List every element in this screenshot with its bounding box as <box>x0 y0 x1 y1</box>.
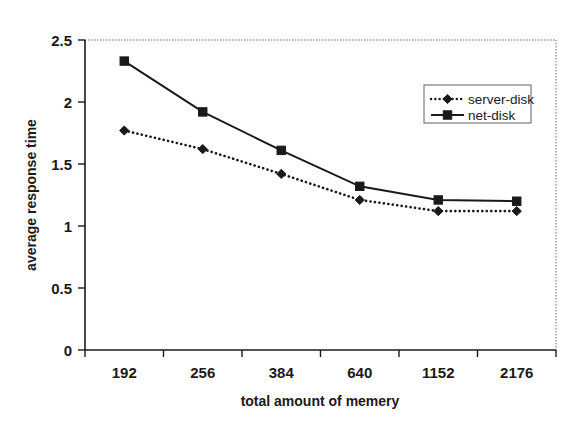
data-point-marker <box>356 182 364 190</box>
chart-container: 00.511.522.5 average response time 19225… <box>0 0 583 425</box>
y-tick-label: 2.5 <box>51 32 72 49</box>
chart-background <box>0 0 583 425</box>
y-tick-label: 1 <box>64 218 72 235</box>
data-point-marker <box>513 197 521 205</box>
data-point-marker <box>120 57 128 65</box>
x-tick-label: 192 <box>112 364 137 381</box>
y-axis-title: average response time <box>23 119 39 271</box>
y-tick-label: 1.5 <box>51 156 72 173</box>
x-tick-label: 256 <box>190 364 215 381</box>
x-tick-label: 640 <box>347 364 372 381</box>
data-point-marker <box>434 196 442 204</box>
legend: server-disknet-disk <box>424 85 534 123</box>
legend-label-net-disk: net-disk <box>468 108 516 123</box>
y-tick-label: 0.5 <box>51 280 72 297</box>
x-tick-label: 384 <box>269 364 295 381</box>
data-point-marker <box>199 108 207 116</box>
x-tick-label: 1152 <box>422 364 455 381</box>
x-tick-label: 2176 <box>500 364 533 381</box>
y-tick-label: 2 <box>64 94 72 111</box>
y-tick-label: 0 <box>64 342 72 359</box>
data-point-marker <box>277 146 285 154</box>
response-time-line-chart: 00.511.522.5 average response time 19225… <box>0 0 583 425</box>
data-point-marker <box>443 111 451 119</box>
x-axis-title: total amount of memery <box>241 393 400 409</box>
legend-label-server-disk: server-disk <box>468 92 534 107</box>
